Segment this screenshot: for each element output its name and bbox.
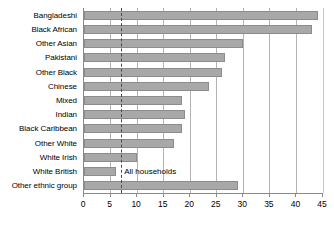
x-axis-tick (136, 193, 137, 197)
bar (84, 124, 182, 133)
category-label: Chinese (0, 82, 77, 91)
gridline (190, 8, 191, 193)
bar (84, 68, 222, 77)
gridline (269, 8, 270, 193)
category-label: Bangladeshi (0, 11, 77, 20)
bar (84, 139, 174, 148)
gridline (243, 8, 244, 193)
all-households-annotation-label: All households (124, 167, 176, 176)
gridline (296, 8, 297, 193)
bar (84, 11, 318, 20)
x-axis-tick (216, 193, 217, 197)
x-axis-tick (269, 193, 270, 197)
x-axis-tick-label: 0 (81, 199, 86, 209)
x-axis-tick-label: 10 (131, 199, 140, 209)
x-axis-line (83, 193, 323, 194)
x-axis-tick (163, 193, 164, 197)
category-label: Other Asian (0, 39, 77, 48)
category-label-axis: BangladeshiBlack AfricanOther AsianPakis… (0, 8, 80, 193)
category-label: Pakistani (0, 53, 77, 62)
gridline (323, 8, 324, 193)
category-label: White British (0, 167, 77, 176)
x-axis-tick-label: 25 (211, 199, 220, 209)
bar (84, 110, 185, 119)
bar (84, 181, 238, 190)
bar (84, 82, 209, 91)
category-label: Black Caribbean (0, 124, 77, 133)
x-axis-tick-label: 40 (291, 199, 300, 209)
plot-area (83, 8, 324, 193)
bar (84, 153, 137, 162)
category-label: Mixed (0, 96, 77, 105)
gridline (216, 8, 217, 193)
x-axis-tick (295, 193, 296, 197)
x-axis-tick-label: 15 (158, 199, 167, 209)
bar (84, 39, 243, 48)
category-label: Indian (0, 110, 77, 119)
category-label: Other White (0, 139, 77, 148)
x-axis-tick (110, 193, 111, 197)
x-axis-tick (322, 193, 323, 197)
category-label: Black African (0, 25, 77, 34)
x-axis-tick-label: 20 (184, 199, 193, 209)
x-axis-tick-label: 45 (317, 199, 326, 209)
x-axis-tick-label: 35 (264, 199, 273, 209)
bar (84, 53, 225, 62)
x-axis-tick-label: 5 (107, 199, 112, 209)
category-label: White Irish (0, 153, 77, 162)
x-axis-tick (242, 193, 243, 197)
x-axis-tick (83, 193, 84, 197)
bar (84, 25, 312, 34)
bar (84, 96, 182, 105)
all-households-reference-line (121, 8, 122, 193)
bar (84, 167, 116, 176)
category-label: Other Black (0, 68, 77, 77)
x-axis-tick (189, 193, 190, 197)
x-axis-tick-label: 30 (238, 199, 247, 209)
bar-chart: BangladeshiBlack AfricanOther AsianPakis… (0, 0, 334, 225)
category-label: Other ethnic group (0, 181, 77, 190)
